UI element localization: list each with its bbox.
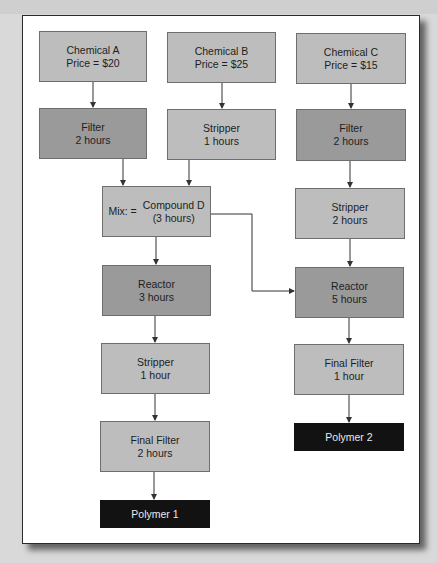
background [0, 0, 437, 14]
node-title: Chemical B [195, 45, 249, 58]
node-chemical-a: Chemical A Price = $20 [39, 31, 147, 82]
node-price: Price = $15 [324, 59, 377, 72]
node-duration: 3 hours [139, 291, 174, 304]
node-title: Compound D [143, 199, 205, 212]
node-title: Chemical C [324, 46, 378, 59]
node-duration: 2 hours [333, 135, 368, 148]
node-title: Reactor [138, 278, 175, 291]
node-polymer-1: Polymer 1 [100, 500, 210, 528]
node-duration: (3 hours) [153, 212, 195, 225]
node-mix-compound-d: Mix: = Compound D (3 hours) [102, 186, 211, 237]
node-duration: 1 hour [334, 370, 364, 383]
node-duration: 2 hours [137, 447, 172, 460]
node-duration: 2 hours [332, 214, 367, 227]
node-chemical-b: Chemical B Price = $25 [167, 32, 276, 83]
node-filter-a: Filter 2 hours [39, 108, 147, 159]
node-title: Filter [81, 121, 104, 134]
node-final-filter-2: Final Filter 1 hour [294, 344, 404, 395]
node-title: Polymer 1 [131, 508, 178, 521]
node-polymer-2: Polymer 2 [294, 423, 404, 451]
node-title: Chemical A [66, 44, 119, 57]
node-duration: 5 hours [332, 293, 367, 306]
node-reactor-2: Reactor 5 hours [295, 267, 404, 318]
node-title: Stripper [332, 201, 369, 214]
node-duration: 2 hours [75, 134, 110, 147]
node-title: Final Filter [130, 434, 179, 447]
node-stripper-1: Stripper 1 hour [101, 343, 210, 394]
node-title: Filter [339, 122, 362, 135]
node-title: Stripper [137, 356, 174, 369]
node-price: Price = $20 [66, 57, 119, 70]
node-duration: 1 hours [204, 135, 239, 148]
node-title: Stripper [203, 122, 240, 135]
node-price: Price = $25 [195, 58, 248, 71]
node-filter-c: Filter 2 hours [296, 109, 406, 161]
node-title: Final Filter [324, 357, 373, 370]
node-title: Reactor [331, 280, 368, 293]
node-chemical-c: Chemical C Price = $15 [296, 33, 406, 84]
node-final-filter-1: Final Filter 2 hours [100, 421, 210, 472]
node-stripper-b: Stripper 1 hours [167, 109, 276, 160]
node-duration: 1 hour [141, 369, 171, 382]
node-title: Polymer 2 [325, 431, 372, 444]
node-reactor-1: Reactor 3 hours [102, 265, 211, 316]
mix-prefix: Mix: = [108, 205, 136, 218]
node-stripper-c: Stripper 2 hours [295, 188, 405, 239]
